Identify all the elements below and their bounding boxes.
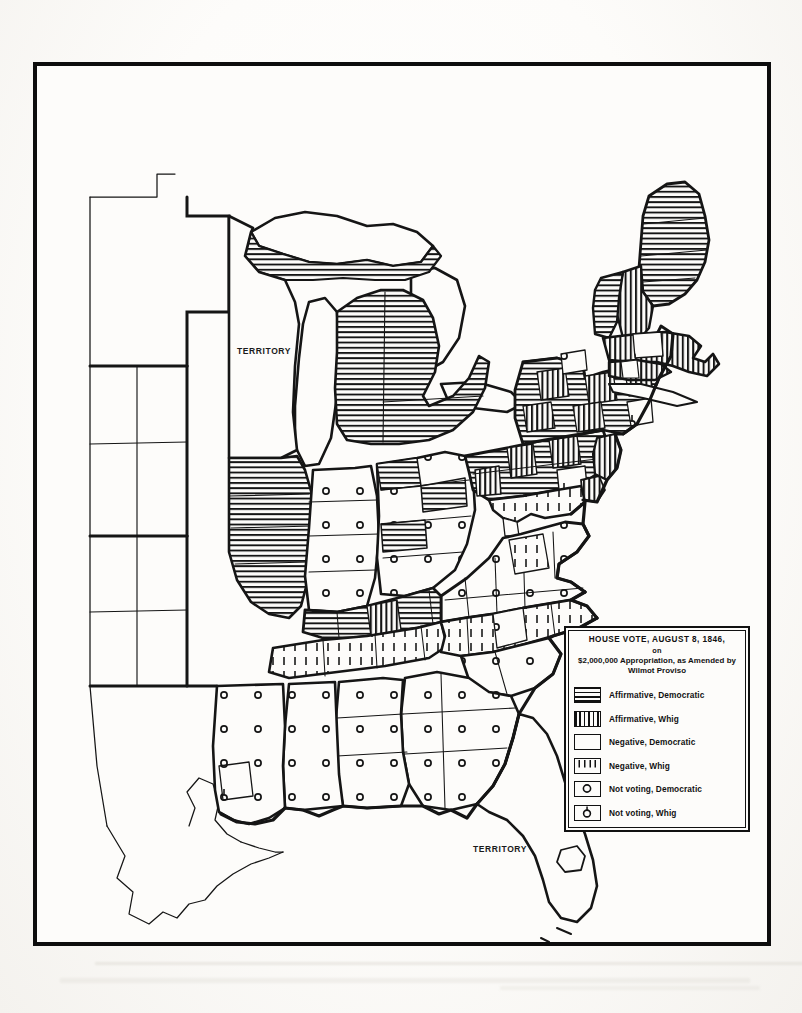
legend-item-label: Not voting, Whig: [609, 808, 677, 818]
legend-item-not-voting-democratic: Not voting, Democratic: [574, 777, 740, 801]
legend-item-negative-whig: Negative, Whig: [574, 754, 740, 778]
legend-title-line2: on: [574, 646, 740, 656]
swatch-circle-stem-icon: [574, 805, 601, 821]
swatch-horizontal-lines-icon: [574, 687, 601, 703]
map-frame: TERRITORY TERRITORY HOUSE VOTE, AUGUST 8…: [33, 62, 771, 946]
legend-item-label: Negative, Democratic: [609, 737, 695, 747]
legend-item-affirmative-whig: Affirmative, Whig: [574, 707, 740, 731]
legend-title-line1: HOUSE VOTE, AUGUST 8, 1846,: [574, 635, 740, 646]
swatch-vertical-lines-icon: [574, 711, 601, 727]
legend-item-label: Not voting, Democratic: [609, 784, 702, 794]
scan-artifact: [500, 986, 760, 990]
legend-title-line4: Wilmot Proviso: [574, 666, 740, 676]
swatch-blank-icon: [574, 734, 601, 750]
legend-item-negative-democratic: Negative, Democratic: [574, 730, 740, 754]
territory-label-northwest: TERRITORY: [237, 346, 291, 356]
territory-label-florida: TERRITORY: [473, 844, 527, 854]
legend-title-block: HOUSE VOTE, AUGUST 8, 1846, on $2,000,00…: [574, 635, 740, 676]
scan-artifact: [60, 978, 750, 983]
map-legend: HOUSE VOTE, AUGUST 8, 1846, on $2,000,00…: [564, 626, 750, 832]
legend-item-affirmative-democratic: Affirmative, Democratic: [574, 683, 740, 707]
legend-item-not-voting-whig: Not voting, Whig: [574, 801, 740, 825]
swatch-circle-icon: [574, 781, 601, 797]
scan-artifact: [95, 962, 802, 965]
legend-item-label: Negative, Whig: [609, 761, 670, 771]
swatch-vertical-ticks-icon: [574, 758, 601, 774]
legend-items-list: Affirmative, Democratic Affirmative, Whi…: [574, 683, 740, 824]
legend-item-label: Affirmative, Democratic: [609, 690, 704, 700]
legend-title-line3: $2,000,000 Appropriation, as Amended by: [574, 656, 740, 666]
legend-item-label: Affirmative, Whig: [609, 714, 679, 724]
